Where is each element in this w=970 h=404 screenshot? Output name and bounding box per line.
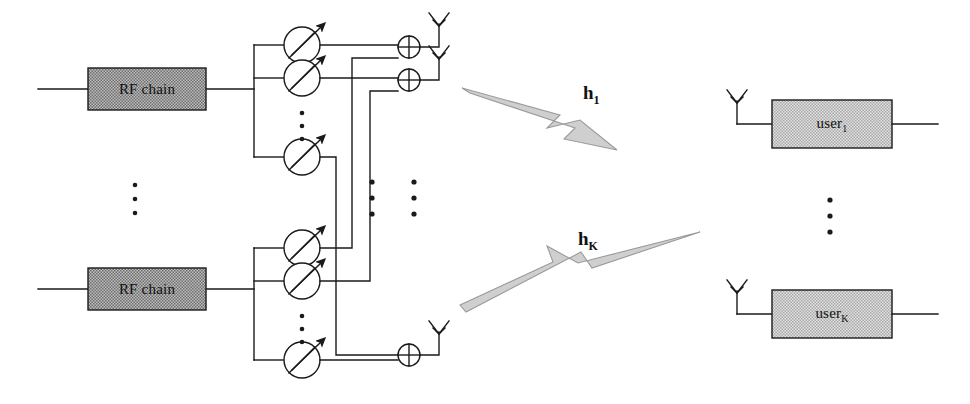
channel-1-label: h1 xyxy=(583,82,600,108)
tx-antenna-3 xyxy=(420,321,449,355)
user-1-text-wrap: user1 xyxy=(817,115,848,134)
channel-k-subscript: K xyxy=(589,239,598,253)
rf-chain-1-splitter-bus xyxy=(254,45,284,157)
diagram-canvas xyxy=(0,0,970,404)
antenna-array-ellipsis-right xyxy=(411,179,416,216)
diagram-root: RF chain RF chain h1 hK user1 userK xyxy=(0,0,970,404)
tx-antenna-2 xyxy=(420,46,449,80)
user-1-text: user xyxy=(817,115,843,131)
rf-chain-2-label: RF chain xyxy=(88,268,206,310)
phase-shifter-ps-1-2[interactable] xyxy=(284,59,322,96)
user-ellipsis xyxy=(827,197,832,234)
user-k-subscript: K xyxy=(841,313,848,324)
wire-ps13-to-summer3 xyxy=(320,157,398,355)
wire-ps22-to-summer2 xyxy=(320,91,398,281)
phase-shifter-ps-2-3[interactable] xyxy=(284,341,322,378)
rf-chain-ellipsis xyxy=(133,183,138,216)
rf-chain-2-splitter-bus xyxy=(254,248,284,360)
phase-shifter-ps-2-1[interactable] xyxy=(284,229,322,266)
phase-shifter-ps-1-1[interactable] xyxy=(284,26,322,63)
channel-1-symbol: h xyxy=(583,82,594,103)
user-1-label: user1 xyxy=(772,100,892,148)
user-k-text-wrap: userK xyxy=(815,305,848,324)
phase-shifter-ps-2-2[interactable] xyxy=(284,262,322,299)
user-1-antenna xyxy=(727,90,772,124)
phase-shifter-ellipsis-bottom xyxy=(300,314,305,345)
user-1-subscript: 1 xyxy=(842,123,847,134)
summer-summer-3[interactable] xyxy=(398,344,420,366)
phase-shifter-ellipsis-top xyxy=(300,111,305,142)
channel-k-symbol: h xyxy=(578,228,589,249)
rf-chain-1-label: RF chain xyxy=(88,68,206,110)
summer-summer-1[interactable] xyxy=(398,36,420,58)
summer-summer-2[interactable] xyxy=(398,69,420,91)
user-k-label: userK xyxy=(772,290,892,338)
channel-k-label: hK xyxy=(578,228,598,254)
wire-ps21-to-summer1 xyxy=(320,58,398,248)
user-k-antenna xyxy=(727,280,772,314)
user-k-text: user xyxy=(815,305,841,321)
rf-chain-2-text: RF chain xyxy=(119,281,175,298)
rf-chain-1-text: RF chain xyxy=(119,81,175,98)
phase-shifter-ps-1-3[interactable] xyxy=(284,138,322,175)
channel-1-subscript: 1 xyxy=(594,93,600,107)
tx-antenna-1 xyxy=(420,13,449,47)
